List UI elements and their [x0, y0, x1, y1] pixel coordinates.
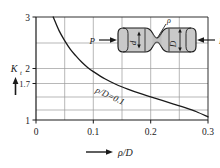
y-tick-label-2: 2 — [25, 64, 30, 74]
stress-concentration-chart: 3 2 1.7 1 0 0.1 0.2 0.3 K t ρ/D ρ/D=0.1 — [0, 0, 220, 168]
y-axis-arrow-head — [13, 77, 19, 84]
y-axis-title: K — [10, 63, 19, 74]
x-tick-label-03: 0.3 — [202, 127, 214, 137]
x-tick-label-01: 0.1 — [87, 127, 99, 137]
inset-label-P-left: P — [89, 36, 96, 46]
inset-label-P-right: P — [218, 36, 220, 46]
x-axis-title: ρ/D — [117, 147, 134, 158]
inset-label-D: D — [168, 40, 178, 48]
y-tick-label-17: 1.7 — [19, 79, 30, 89]
inset-label-d: d — [128, 40, 138, 45]
y-tick-label-3: 3 — [25, 13, 30, 23]
x-tick-label-02: 0.2 — [145, 127, 157, 137]
y-axis-title-subscript: t — [20, 69, 22, 76]
x-axis-arrow-head — [106, 149, 113, 155]
x-tick-label-0: 0 — [34, 127, 39, 137]
y-tick-label-1: 1 — [25, 116, 30, 126]
chart-canvas: 3 2 1.7 1 0 0.1 0.2 0.3 K t ρ/D ρ/D=0.1 — [0, 0, 220, 168]
inset-label-rho: ρ — [166, 16, 171, 25]
x-axis-title-group: ρ/D — [86, 147, 134, 158]
